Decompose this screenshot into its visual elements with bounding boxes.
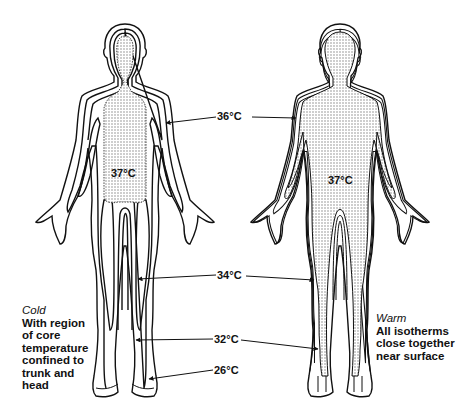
cold-left-foot-edge bbox=[96, 384, 118, 389]
isotherm-label-36: 36°C bbox=[216, 110, 243, 122]
warm-right-foot-inner bbox=[354, 376, 362, 392]
cold-caption-line: confined to bbox=[22, 354, 88, 367]
warm-left-foot-inner bbox=[318, 376, 326, 392]
cold-caption-title: Cold bbox=[22, 304, 88, 317]
pointer-32-cold bbox=[136, 339, 213, 340]
cold-left-leg-loop bbox=[101, 200, 114, 330]
warm-caption: Warm All isotherms close together near s… bbox=[376, 312, 455, 362]
cold-caption-line: With region bbox=[22, 317, 88, 330]
cold-caption-line: of core bbox=[22, 329, 88, 342]
isotherm-label-32: 32°C bbox=[213, 333, 240, 345]
warm-caption-line: All isotherms bbox=[376, 325, 455, 338]
pointer-36-cold bbox=[166, 117, 216, 123]
cold-core-label: 37°C bbox=[111, 167, 136, 179]
cold-caption-line: head bbox=[22, 379, 88, 392]
cold-caption-line: temperature bbox=[22, 342, 88, 355]
pointer-32-warm bbox=[241, 340, 318, 349]
warm-caption-line: close together bbox=[376, 337, 455, 350]
pointer-26-cold bbox=[149, 370, 213, 379]
cold-crotch-loop-2 bbox=[122, 214, 128, 311]
cold-caption-line: trunk and bbox=[22, 367, 88, 380]
warm-caption-line: near surface bbox=[376, 350, 455, 363]
isotherm-label-34: 34°C bbox=[216, 269, 243, 281]
isotherm-label-26: 26°C bbox=[213, 364, 240, 376]
pointer-36-warm bbox=[252, 117, 296, 118]
warm-caption-title: Warm bbox=[376, 312, 455, 325]
pointer-34-warm bbox=[246, 276, 314, 280]
cold-crotch-loop bbox=[118, 208, 132, 330]
warm-core-label: 37°C bbox=[328, 174, 353, 186]
cold-right-foot-edge bbox=[132, 384, 154, 389]
cold-caption: Cold With region of core temperature con… bbox=[22, 304, 88, 392]
